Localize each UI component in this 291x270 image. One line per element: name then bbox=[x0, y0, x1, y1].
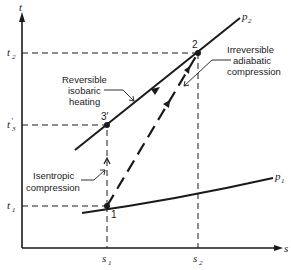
leader-reversible bbox=[104, 90, 134, 101]
annotation-irreversible-line1: Irreversible bbox=[227, 44, 274, 55]
isobar-p2-label-sub: 2 bbox=[248, 17, 252, 25]
x-tick-s1-label: s bbox=[102, 252, 106, 264]
annotation-irreversible-line3: compression bbox=[227, 66, 281, 77]
x-tick-s2-sub: 2 bbox=[199, 259, 203, 267]
x-tick-s2: s 2 bbox=[193, 252, 203, 267]
annotation-reversible-heating: Reversible isobaric heating bbox=[62, 74, 134, 107]
isobar-p2-label-text: p bbox=[241, 10, 248, 22]
y-tick-t1: t 1 bbox=[7, 199, 16, 214]
ts-diagram: t s 1 3′ 2 t 2 t ′ 3 t 1 s 1 bbox=[0, 0, 291, 270]
point-3prime-label: 3′ bbox=[101, 111, 109, 122]
isobar-p1-label-text: p bbox=[274, 170, 281, 182]
irreversible-arrow-icon-lower bbox=[163, 100, 170, 108]
isobar-p2-label: p 2 bbox=[241, 10, 252, 25]
x-tick-s2-label: s bbox=[193, 252, 197, 264]
point-2-label: 2 bbox=[192, 39, 198, 50]
annotation-reversible-line3: heating bbox=[69, 96, 100, 107]
point-1-marker bbox=[104, 203, 110, 209]
x-axis-arrow-icon bbox=[274, 245, 283, 251]
x-tick-s1-sub: 1 bbox=[108, 259, 112, 267]
x-tick-s1: s 1 bbox=[102, 252, 112, 267]
point-1-label: 1 bbox=[111, 209, 117, 220]
annotation-irreversible-line2: adiabatic bbox=[233, 55, 271, 66]
y-tick-t1-label: t bbox=[7, 199, 11, 211]
reference-lines bbox=[22, 53, 198, 248]
annotation-isentropic-line2: compression bbox=[26, 182, 80, 193]
isobar-p1-label: p 1 bbox=[274, 170, 285, 185]
irreversible-arrow-icon-upper bbox=[184, 66, 190, 74]
y-tick-t3prime: t ′ 3 bbox=[7, 117, 16, 133]
leader-isentropic bbox=[81, 170, 105, 180]
y-tick-t3-sub: 3 bbox=[11, 125, 16, 133]
point-2-marker bbox=[195, 50, 201, 56]
irreversible-compression-line bbox=[107, 53, 198, 206]
point-3prime-marker bbox=[104, 122, 110, 128]
y-tick-t2-sub: 2 bbox=[12, 53, 16, 61]
isobar-p1-label-sub: 1 bbox=[281, 177, 285, 185]
annotation-isentropic-compression: Isentropic compression bbox=[26, 170, 105, 193]
y-axis-label: t bbox=[19, 1, 23, 13]
annotation-reversible-line2: isobaric bbox=[68, 85, 101, 96]
y-axis-arrow-icon bbox=[19, 12, 25, 22]
x-axis-label: s bbox=[284, 242, 288, 254]
annotation-reversible-line1: Reversible bbox=[62, 74, 107, 85]
y-tick-t2-label: t bbox=[7, 46, 11, 58]
y-tick-t2: t 2 bbox=[7, 46, 16, 61]
y-tick-t1-sub: 1 bbox=[12, 206, 16, 214]
isobar-p1 bbox=[82, 178, 273, 213]
annotation-isentropic-line1: Isentropic bbox=[33, 170, 74, 181]
